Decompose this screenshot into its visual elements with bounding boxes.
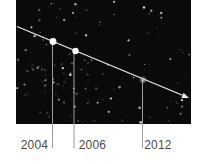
data-point-2006 [72,48,78,54]
year-label-2006: 2006 [79,139,107,151]
year-label-2012: 2012 [144,139,172,151]
data-point-2012 [141,78,146,83]
data-point-2004 [50,38,57,45]
figure-canvas: 2004 2006 2012 [0,0,206,164]
year-label-2004: 2004 [21,139,49,151]
